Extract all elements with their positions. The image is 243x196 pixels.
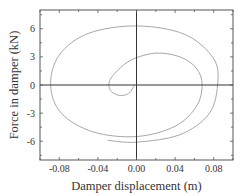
x-tick-label: 0.00 [128,163,146,174]
y-tick-label: -3 [27,108,35,119]
x-tick-label: -0.08 [49,163,70,174]
y-tick-label: 6 [30,23,35,34]
x-tick-label: -0.04 [87,163,108,174]
x-tick-label: 0.04 [166,163,184,174]
y-tick-label: 3 [30,51,35,62]
plot-area [51,26,219,142]
y-tick-label: -6 [27,136,35,147]
y-tick-label: 0 [30,80,35,91]
chart: -0.08-0.040.000.040.08-6-3036Damper disp… [0,0,243,196]
x-tick-label: 0.08 [205,163,223,174]
y-axis-label: Force in damper (kN) [7,31,21,140]
x-axis-label: Damper displacement (m) [71,179,202,193]
data-series-line [51,26,219,142]
